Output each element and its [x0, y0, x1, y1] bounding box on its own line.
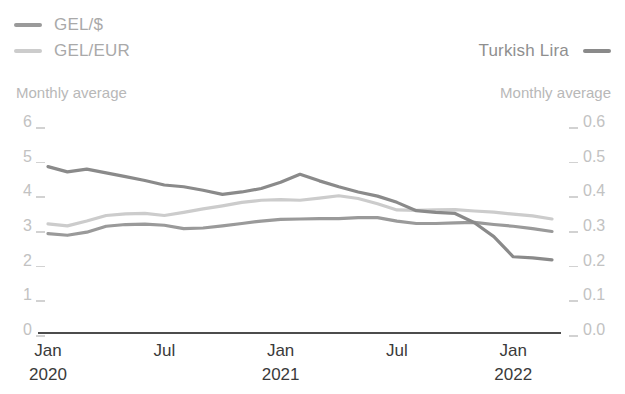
series-line-gel: [48, 218, 552, 236]
legend-item-turkish-lira[interactable]: Turkish Lira: [478, 38, 611, 64]
left-axis-tick-label: 4: [8, 182, 32, 200]
right-axis-tick-mark: [569, 127, 578, 129]
left-axis-tick-label: 3: [8, 217, 32, 235]
left-axis-tick-label: 5: [8, 148, 32, 166]
x-axis-tick-month: Jul: [352, 340, 442, 362]
x-axis-tick-month: Jan: [3, 340, 93, 362]
right-axis-tick-label: 0.3: [583, 217, 623, 235]
right-axis-tick-mark: [569, 335, 578, 337]
x-axis-tick-year: 2021: [236, 362, 326, 388]
right-axis-tick-mark: [569, 231, 578, 233]
legend-left: GEL/$ GEL/EUR: [14, 12, 294, 64]
x-axis-tick-label: Jul: [352, 340, 442, 362]
right-axis-tick-label: 0.2: [583, 252, 623, 270]
x-axis-tick-year: 2020: [3, 362, 93, 388]
x-axis-line: [38, 332, 561, 334]
right-axis-tick-label: 0.0: [583, 321, 623, 339]
caption-right-axis: Monthly average: [500, 84, 611, 101]
x-axis-tick-label: Jan2022: [468, 340, 558, 388]
line-swatch-icon: [14, 49, 42, 53]
x-axis-tick-month: Jul: [119, 340, 209, 362]
left-axis-tick-label: 0: [8, 321, 32, 339]
chart-lines-svg: [0, 110, 625, 335]
right-axis-tick-label: 0.5: [583, 148, 623, 166]
left-axis-tick-label: 6: [8, 113, 32, 131]
right-axis-tick-label: 0.1: [583, 286, 623, 304]
legend-item-gel-eur[interactable]: GEL/EUR: [14, 38, 294, 64]
left-axis-tick-label: 1: [8, 286, 32, 304]
line-swatch-icon: [583, 49, 611, 53]
right-axis-tick-mark: [569, 162, 578, 164]
left-axis-tick-mark: [36, 335, 45, 337]
x-axis-tick-label: Jan2021: [236, 340, 326, 388]
legend-item-label: GEL/EUR: [54, 41, 130, 61]
left-axis-tick-mark: [36, 300, 45, 302]
x-axis-tick-year: 2022: [468, 362, 558, 388]
legend-right: Turkish Lira: [478, 38, 611, 64]
left-axis-tick-mark: [36, 196, 45, 198]
right-axis-tick-label: 0.4: [583, 182, 623, 200]
x-axis-tick-month: Jan: [236, 340, 326, 362]
legend-item-label: Turkish Lira: [478, 41, 569, 61]
left-axis-tick-mark: [36, 231, 45, 233]
left-axis-tick-label: 2: [8, 252, 32, 270]
x-axis-tick-month: Jan: [468, 340, 558, 362]
caption-left-axis: Monthly average: [16, 84, 127, 101]
right-axis-tick-mark: [569, 196, 578, 198]
x-axis-tick-label: Jan2020: [3, 340, 93, 388]
right-axis-tick-mark: [569, 266, 578, 268]
line-swatch-icon: [14, 23, 42, 27]
right-axis-tick-label: 0.6: [583, 113, 623, 131]
left-axis-tick-mark: [36, 162, 45, 164]
legend-item-gel-usd[interactable]: GEL/$: [14, 12, 294, 38]
chart-plot-area: 0123456 0.00.10.20.30.40.50.6: [0, 110, 625, 335]
left-axis-tick-mark: [36, 127, 45, 129]
x-axis-tick-label: Jul: [119, 340, 209, 362]
left-axis-tick-mark: [36, 266, 45, 268]
legend-item-label: GEL/$: [54, 15, 103, 35]
right-axis-tick-mark: [569, 300, 578, 302]
